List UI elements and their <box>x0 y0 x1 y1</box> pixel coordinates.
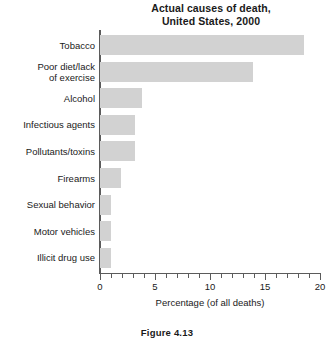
x-tick-minor <box>122 274 123 278</box>
category-label-line: Illicit drug use <box>2 252 95 263</box>
x-tick-minor <box>199 274 200 278</box>
bar-row <box>100 112 320 139</box>
x-tick-minor <box>243 274 244 278</box>
category-label: Sexual behavior <box>2 199 95 210</box>
category-label: Tobacco <box>2 40 95 51</box>
category-label-line: Alcohol <box>2 93 95 104</box>
bar <box>100 35 304 55</box>
bar-row <box>100 245 320 272</box>
x-tick-major <box>320 274 321 280</box>
x-tick-minor <box>232 274 233 278</box>
chart-title: Actual causes of death, United States, 2… <box>96 2 326 27</box>
category-label-line: Sexual behavior <box>2 199 95 210</box>
x-tick-label: 10 <box>197 281 223 292</box>
category-label: Pollutants/toxins <box>2 146 95 157</box>
x-tick-major <box>155 274 156 280</box>
bar-row <box>100 85 320 112</box>
category-label-line: Pollutants/toxins <box>2 146 95 157</box>
bar-row <box>100 165 320 192</box>
bar <box>100 115 135 135</box>
bar-row <box>100 192 320 219</box>
category-label-line: Tobacco <box>2 40 95 51</box>
x-tick-minor <box>221 274 222 278</box>
bar-row <box>100 59 320 86</box>
bar-row <box>100 32 320 59</box>
x-tick-label: 15 <box>252 281 278 292</box>
category-label: Firearms <box>2 173 95 184</box>
x-tick-label: 0 <box>87 281 113 292</box>
x-tick-minor <box>188 274 189 278</box>
x-axis-label: Percentage (of all deaths) <box>100 297 320 308</box>
x-tick-major <box>210 274 211 280</box>
bar <box>100 248 111 268</box>
category-label-line: Infectious agents <box>2 119 95 130</box>
chart-title-line-1: Actual causes of death, <box>96 2 326 15</box>
bar <box>100 62 253 82</box>
chart-title-line-2: United States, 2000 <box>96 15 326 28</box>
x-tick-minor <box>177 274 178 278</box>
x-tick-minor <box>298 274 299 278</box>
figure-container: Actual causes of death, United States, 2… <box>0 0 334 351</box>
x-tick-minor <box>166 274 167 278</box>
x-tick-minor <box>309 274 310 278</box>
category-label-line: Firearms <box>2 173 95 184</box>
category-label-line: Poor diet/lack <box>2 61 95 72</box>
category-label: Infectious agents <box>2 119 95 130</box>
category-label: Poor diet/lackof exercise <box>2 61 95 83</box>
x-tick-minor <box>133 274 134 278</box>
x-tick-minor <box>254 274 255 278</box>
category-label: Alcohol <box>2 93 95 104</box>
bar <box>100 168 121 188</box>
x-tick-label: 20 <box>307 281 333 292</box>
x-tick-minor <box>111 274 112 278</box>
category-label-line: Motor vehicles <box>2 226 95 237</box>
bar <box>100 221 111 241</box>
bar <box>100 141 135 161</box>
x-tick-major <box>265 274 266 280</box>
x-tick-minor <box>144 274 145 278</box>
x-tick-label: 5 <box>142 281 168 292</box>
figure-caption: Figure 4.13 <box>0 327 334 338</box>
x-tick-minor <box>287 274 288 278</box>
bar-row <box>100 218 320 245</box>
x-tick-major <box>100 274 101 280</box>
x-tick-minor <box>276 274 277 278</box>
category-label-line: of exercise <box>2 72 95 83</box>
bar-row <box>100 138 320 165</box>
category-label: Illicit drug use <box>2 252 95 263</box>
bar <box>100 195 111 215</box>
bar <box>100 88 142 108</box>
category-label: Motor vehicles <box>2 226 95 237</box>
